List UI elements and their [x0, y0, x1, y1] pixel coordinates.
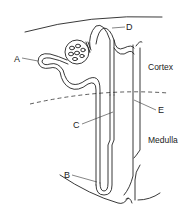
label-c: C	[73, 120, 80, 130]
leader-line-e	[134, 100, 156, 110]
collecting-duct	[124, 42, 142, 204]
region-label-cortex: Cortex	[148, 62, 174, 72]
label-b: B	[64, 170, 70, 180]
loop-of-henle	[96, 95, 114, 195]
renal-papilla-outline-right	[138, 193, 160, 200]
glomerulus	[65, 40, 91, 64]
leader-line-d	[112, 27, 125, 28]
leader-line-b	[72, 175, 97, 182]
proximal-convoluted-tubule	[38, 54, 100, 185]
cortex-medulla-boundary	[30, 92, 168, 104]
label-d: D	[126, 22, 133, 32]
distal-convoluted-tubule	[90, 25, 134, 95]
nephron-diagram: A B C D E Cortex Medulla	[0, 0, 189, 213]
leader-line-a	[22, 58, 38, 61]
region-label-medulla: Medulla	[148, 135, 178, 145]
renal-papilla-outline	[60, 175, 128, 203]
label-e: E	[158, 105, 164, 115]
leader-line-c	[82, 112, 113, 124]
label-a: A	[14, 54, 20, 64]
